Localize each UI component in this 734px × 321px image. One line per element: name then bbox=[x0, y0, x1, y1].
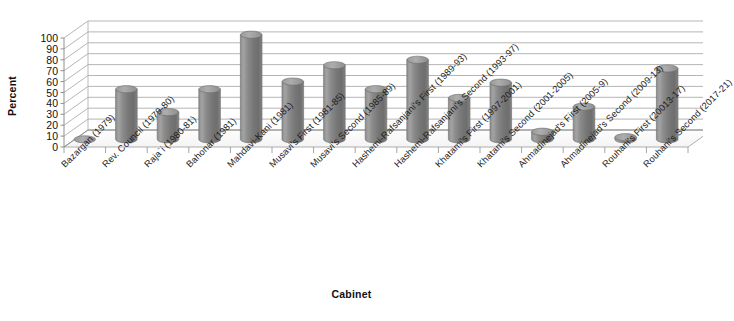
x-tick-label: Rouhani's Second (2017-21) bbox=[642, 77, 734, 169]
x-tick-label: Khatami's First (1997-2001) bbox=[434, 80, 524, 170]
x-axis-title: Cabinet bbox=[0, 288, 703, 300]
x-tick-label: Rev. Council (1979-80) bbox=[101, 94, 177, 170]
x-tick-label: Musavi's Second (1985-89) bbox=[309, 81, 398, 170]
x-tick-label: Rouhani's First (20013-17) bbox=[600, 83, 687, 170]
x-tick-label: Musavi's First (1981-85) bbox=[267, 90, 346, 169]
